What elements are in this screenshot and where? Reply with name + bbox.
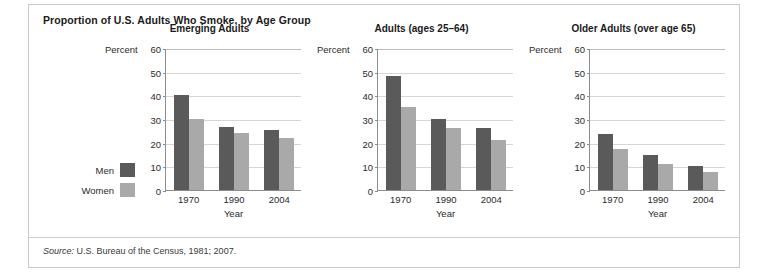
y-tick-label: 0	[156, 186, 161, 197]
y-tick-label: 40	[574, 91, 585, 102]
bar-men-2004	[476, 128, 491, 190]
plot-canvas: 0102030405060197019902004Year	[165, 49, 301, 191]
panel-title: Adults (ages 25–64)	[319, 23, 524, 34]
y-axis-unit-label: Percent	[105, 44, 138, 55]
bars-layer	[590, 49, 725, 190]
y-tick-label: 60	[362, 44, 373, 55]
bar-group-2004	[264, 49, 294, 190]
panel-title: Emerging Adults	[107, 23, 312, 34]
bar-group-2004	[688, 49, 718, 190]
bar-group-2004	[476, 49, 506, 190]
plot-area: 0102030405060197019902004Year	[589, 49, 725, 191]
plot-canvas: 0102030405060197019902004Year	[589, 49, 725, 191]
bar-men-2004	[688, 166, 703, 190]
x-axis-title: Year	[166, 208, 301, 219]
y-tick-label: 50	[150, 67, 161, 78]
y-tick-label: 20	[574, 138, 585, 149]
bar-men-1990	[219, 127, 234, 190]
bar-men-2004	[264, 130, 279, 190]
y-tick-label: 50	[362, 67, 373, 78]
y-tick-mark	[375, 191, 378, 192]
chart-panel-1: Emerging AdultsPercent010203040506019701…	[107, 23, 312, 233]
bar-women-1990	[658, 164, 673, 190]
y-tick-label: 20	[150, 138, 161, 149]
source-label: Source:	[43, 246, 74, 256]
x-tick-label: 1970	[178, 194, 199, 205]
bars-layer	[166, 49, 301, 190]
bar-women-2004	[491, 140, 506, 190]
y-tick-label: 10	[574, 162, 585, 173]
y-tick-label: 10	[150, 162, 161, 173]
y-tick-label: 30	[150, 115, 161, 126]
y-tick-label: 20	[362, 138, 373, 149]
x-tick-label: 2004	[269, 194, 290, 205]
bar-men-1990	[643, 155, 658, 191]
x-tick-label: 1970	[390, 194, 411, 205]
x-axis-title: Year	[590, 208, 725, 219]
y-tick-label: 50	[574, 67, 585, 78]
plot-area: 0102030405060197019902004Year	[165, 49, 301, 191]
bar-women-2004	[703, 172, 718, 190]
y-tick-label: 40	[362, 91, 373, 102]
source-divider	[29, 237, 739, 238]
y-tick-label: 40	[150, 91, 161, 102]
bar-women-1970	[613, 149, 628, 190]
source-note: Source: U.S. Bureau of the Census, 1981;…	[43, 246, 236, 256]
y-tick-label: 60	[150, 44, 161, 55]
plot-canvas: 0102030405060197019902004Year	[377, 49, 513, 191]
bar-group-1990	[431, 49, 461, 190]
y-tick-label: 30	[362, 115, 373, 126]
y-tick-label: 30	[574, 115, 585, 126]
figure-frame: Proportion of U.S. Adults Who Smoke, by …	[28, 4, 740, 268]
bars-layer	[378, 49, 513, 190]
bar-group-1970	[598, 49, 628, 190]
bar-men-1990	[431, 119, 446, 190]
chart-panel-3: Older Adults (over age 65)Percent0102030…	[531, 23, 736, 233]
x-tick-label: 1990	[647, 194, 668, 205]
bar-women-1990	[446, 128, 461, 190]
y-tick-mark	[163, 191, 166, 192]
bar-men-1970	[598, 134, 613, 190]
x-tick-label: 1990	[435, 194, 456, 205]
y-axis-unit-label: Percent	[529, 44, 562, 55]
bar-women-1990	[234, 133, 249, 190]
y-tick-label: 60	[574, 44, 585, 55]
bar-men-1970	[174, 95, 189, 190]
chart-panels: Emerging AdultsPercent010203040506019701…	[107, 23, 735, 233]
bar-group-1970	[174, 49, 204, 190]
x-tick-label: 2004	[693, 194, 714, 205]
x-axis-title: Year	[378, 208, 513, 219]
bar-women-1970	[401, 107, 416, 190]
y-tick-label: 0	[580, 186, 585, 197]
x-tick-label: 1990	[223, 194, 244, 205]
panel-title: Older Adults (over age 65)	[531, 23, 736, 34]
x-tick-label: 1970	[602, 194, 623, 205]
bar-men-1970	[386, 76, 401, 190]
y-tick-label: 10	[362, 162, 373, 173]
bar-group-1990	[643, 49, 673, 190]
y-axis-unit-label: Percent	[317, 44, 350, 55]
source-citation: U.S. Bureau of the Census, 1981; 2007.	[74, 246, 236, 256]
chart-panel-2: Adults (ages 25–64)Percent01020304050601…	[319, 23, 524, 233]
y-tick-mark	[587, 191, 590, 192]
y-tick-label: 0	[368, 186, 373, 197]
x-tick-label: 2004	[481, 194, 502, 205]
bar-group-1970	[386, 49, 416, 190]
plot-area: 0102030405060197019902004Year	[377, 49, 513, 191]
bar-group-1990	[219, 49, 249, 190]
bar-women-1970	[189, 119, 204, 190]
bar-women-2004	[279, 138, 294, 190]
